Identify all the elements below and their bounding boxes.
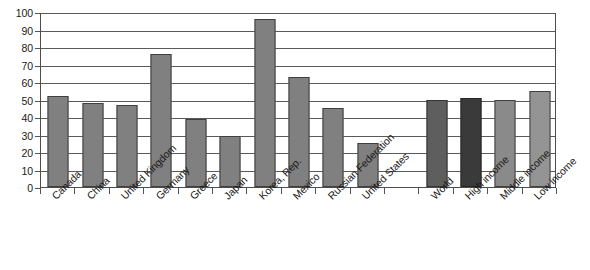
bar-slot <box>419 13 453 187</box>
bar-slot <box>110 13 144 187</box>
bar-slot <box>247 13 281 187</box>
bar-slot <box>316 13 350 187</box>
y-tick-label: 70 <box>0 61 33 71</box>
y-tick-label: 20 <box>0 148 33 158</box>
bar[interactable] <box>426 100 447 188</box>
y-tick-label: 80 <box>0 43 33 53</box>
bar[interactable] <box>323 108 344 187</box>
bar-slot <box>213 13 247 187</box>
bar[interactable] <box>48 96 69 187</box>
x-axis-labels: CanadaChinaUnited KingdomGermanyGreeceJa… <box>40 194 590 270</box>
bar-chart: 1009080706050403020100 CanadaChinaUnited… <box>0 0 590 270</box>
y-tick-label: 40 <box>0 113 33 123</box>
y-tick-label: 30 <box>0 131 33 141</box>
y-tick-label: 10 <box>0 166 33 176</box>
bar[interactable] <box>82 103 103 187</box>
y-tick-label: 50 <box>0 96 33 106</box>
bar-slot <box>75 13 109 187</box>
y-axis: 1009080706050403020100 <box>0 13 33 188</box>
bar[interactable] <box>116 105 137 187</box>
bar[interactable] <box>254 19 275 187</box>
y-tick-label: 100 <box>0 8 33 18</box>
y-tick-label: 0 <box>0 183 33 193</box>
bar-slot <box>41 13 75 187</box>
y-tick-label: 60 <box>0 78 33 88</box>
y-tick-label: 90 <box>0 26 33 36</box>
bar-slot <box>179 13 213 187</box>
bar-slot <box>454 13 488 187</box>
bar[interactable] <box>460 98 481 187</box>
